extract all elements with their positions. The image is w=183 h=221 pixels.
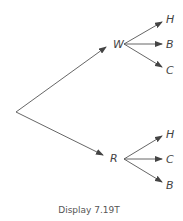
- leaf-edge-w-h: [124, 22, 162, 44]
- figure-caption: Display 7.19T: [58, 205, 120, 215]
- tree-diagram: WHBCRHCB Display 7.19T: [0, 0, 183, 221]
- tree-edges: [16, 22, 162, 182]
- tree-labels: WHBCRHCB: [110, 13, 174, 192]
- leaf-edge-r-b: [124, 159, 162, 182]
- leaf-edge-r-h: [124, 136, 162, 159]
- branch-edge-r: [16, 112, 103, 155]
- branch-edge-w: [16, 47, 106, 112]
- leaf-label-w-c: C: [166, 64, 174, 77]
- leaf-label-r-c: C: [166, 153, 174, 166]
- node-label-w: W: [113, 38, 125, 51]
- leaf-label-r-h: H: [166, 128, 174, 141]
- leaf-label-r-b: B: [166, 179, 174, 192]
- leaf-label-w-b: B: [166, 38, 174, 51]
- node-label-r: R: [110, 152, 118, 165]
- leaf-edge-w-c: [124, 44, 162, 67]
- leaf-label-w-h: H: [166, 13, 174, 26]
